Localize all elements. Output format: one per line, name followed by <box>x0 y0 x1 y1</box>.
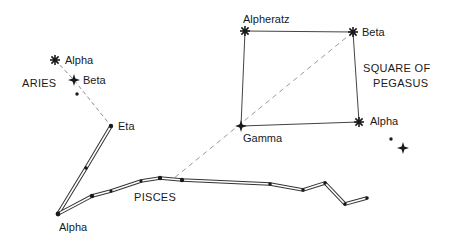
pegasus-gamma-label: Gamma <box>243 132 283 144</box>
pegasus-alpha-label: Alpha <box>370 115 399 127</box>
pisces-alpha-star-icon <box>56 212 61 217</box>
star-chart: Alpha Beta Eta Alpha Alpheratz Beta Gamm… <box>0 0 457 243</box>
square-of-pegasus-label-line2: PEGASUS <box>373 77 428 89</box>
minor-star-icon <box>389 137 392 140</box>
star-dot <box>301 188 305 192</box>
pegasus-diagonal-dashed-line <box>173 32 353 179</box>
dashed-guide-lines <box>55 32 353 179</box>
aries-minor-star-icon <box>75 92 78 95</box>
star-dot <box>268 182 272 186</box>
star-dot <box>365 196 369 200</box>
pisces-constellation-label: PISCES <box>134 191 176 203</box>
star-dot <box>323 181 327 185</box>
alpheratz-star-icon <box>240 26 250 36</box>
aries-alpha-star-icon <box>50 55 60 65</box>
aries-constellation-label: ARIES <box>22 77 57 89</box>
pegasus-gamma-star-icon <box>235 120 247 132</box>
star-dot <box>90 194 94 198</box>
pegasus-alpha-star-icon <box>354 117 364 127</box>
pisces-double-lines <box>58 126 367 214</box>
pisces-alpha-label: Alpha <box>59 221 88 233</box>
star-dot <box>139 179 142 182</box>
star-dot <box>180 178 184 182</box>
aries-dashed-line <box>55 60 111 126</box>
pisces-arm-main <box>58 178 367 214</box>
star-dot <box>343 202 347 206</box>
pegasus-beta-label: Beta <box>362 26 386 38</box>
square-of-pegasus-label-line1: SQUARE OF <box>363 62 431 74</box>
aries-beta-label: Beta <box>83 74 107 86</box>
star-dot <box>158 176 162 180</box>
star-dot <box>84 166 88 170</box>
aries-alpha-label: Alpha <box>65 54 94 66</box>
four-point-star-icon <box>397 142 409 154</box>
alpheratz-label: Alpheratz <box>243 13 289 25</box>
pegasus-beta-star-icon <box>348 27 358 37</box>
square-of-pegasus-lines <box>241 31 359 126</box>
pisces-eta-star-icon <box>109 124 113 128</box>
pisces-eta-label: Eta <box>118 120 135 132</box>
star-dot <box>109 189 112 192</box>
